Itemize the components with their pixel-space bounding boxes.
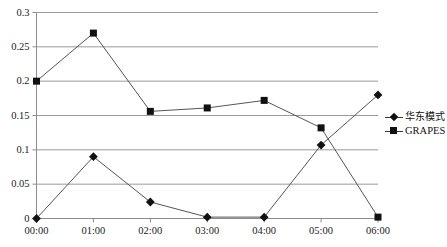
square-marker-icon bbox=[90, 30, 97, 37]
square-marker-icon bbox=[261, 97, 268, 104]
square-marker-icon bbox=[318, 124, 325, 131]
series-line bbox=[37, 33, 379, 217]
x-axis-tick-label: 04:00 bbox=[242, 226, 286, 237]
x-axis-tick-label: 03:00 bbox=[185, 226, 229, 237]
x-axis-tick-label: 00:00 bbox=[15, 226, 59, 237]
series-line bbox=[37, 95, 379, 219]
diamond-marker-icon bbox=[260, 213, 269, 222]
legend-label-grapes: GRAPES bbox=[403, 126, 445, 137]
square-marker-icon bbox=[147, 108, 154, 115]
y-axis-tick-label: 0.15 bbox=[0, 111, 30, 122]
gridlines bbox=[37, 13, 379, 219]
y-axis-tick-label: 0.25 bbox=[0, 42, 30, 53]
y-axis-tick-label: 0 bbox=[0, 214, 30, 225]
chart-legend: 华东模式 GRAPES bbox=[385, 110, 447, 138]
legend-item-huadong[interactable]: 华东模式 bbox=[385, 110, 447, 124]
square-marker-icon bbox=[375, 214, 382, 221]
square-marker-icon bbox=[385, 125, 403, 137]
diamond-marker-icon bbox=[203, 213, 212, 222]
legend-label-huadong: 华东模式 bbox=[403, 112, 445, 122]
y-axis-tick-label: 0.2 bbox=[0, 76, 30, 87]
y-axis-tick-label: 0.05 bbox=[0, 179, 30, 190]
y-axis-tick-label: 0.3 bbox=[0, 8, 30, 19]
x-axis-tick-label: 02:00 bbox=[128, 226, 172, 237]
square-marker-icon bbox=[33, 78, 40, 85]
x-axis-tick-label: 05:00 bbox=[299, 226, 343, 237]
chart-plot-area bbox=[0, 0, 447, 247]
x-axis-tick-label: 06:00 bbox=[356, 226, 400, 237]
x-axis-tick-label: 01:00 bbox=[71, 226, 115, 237]
square-marker-icon bbox=[204, 104, 211, 111]
legend-item-grapes[interactable]: GRAPES bbox=[385, 124, 447, 138]
line-chart: 00.050.10.150.20.250.3 00:0001:0002:0003… bbox=[0, 0, 447, 247]
diamond-marker-icon bbox=[385, 111, 403, 123]
series-2 bbox=[33, 30, 382, 221]
y-axis-tick-label: 0.1 bbox=[0, 145, 30, 156]
